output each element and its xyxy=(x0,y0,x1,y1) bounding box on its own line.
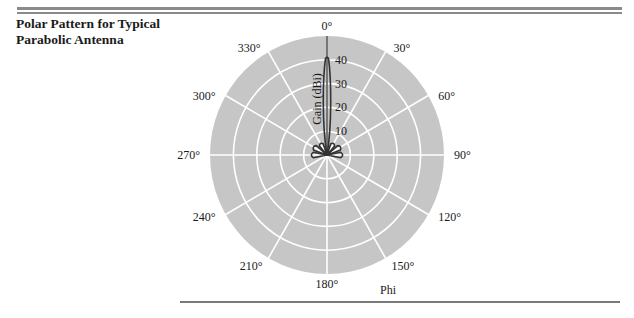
angle-tick-label: 300° xyxy=(193,89,216,103)
bottom-rule xyxy=(180,301,620,303)
radial-tick-label: 30 xyxy=(335,77,347,91)
radial-tick-label: 10 xyxy=(335,124,347,138)
angle-tick-label: 90° xyxy=(454,148,471,162)
angle-tick-label: 30° xyxy=(394,41,411,55)
angle-tick-label: 120° xyxy=(438,210,461,224)
radial-tick-label: 20 xyxy=(335,100,347,114)
angle-tick-label: 330° xyxy=(238,41,261,55)
radial-tick-label: 40 xyxy=(335,53,347,67)
angle-tick-label: 270° xyxy=(177,148,200,162)
angle-tick-label: 180° xyxy=(316,277,339,291)
angle-tick-label: 60° xyxy=(438,89,455,103)
angle-tick-label: 210° xyxy=(240,259,263,273)
angle-tick-label: 240° xyxy=(193,210,216,224)
polar-chart: 0°30°60°90°120°150°180°210°240°270°300°3… xyxy=(0,0,634,318)
radial-axis-label: Gain (dBi) xyxy=(310,73,324,125)
angle-tick-label: 150° xyxy=(392,259,415,273)
angle-tick-label: 0° xyxy=(322,19,333,33)
angular-axis-label: Phi xyxy=(380,283,397,297)
